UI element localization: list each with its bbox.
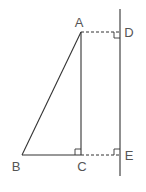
label-b: B [12, 159, 21, 174]
segment-ab [22, 32, 81, 155]
right-angle-marker-d [114, 32, 120, 38]
geometry-diagram: A B C D E [0, 0, 146, 192]
right-angle-marker-c [75, 149, 81, 155]
label-a: A [75, 15, 84, 30]
label-d: D [124, 25, 133, 40]
label-e: E [125, 148, 134, 163]
right-angle-marker-e [114, 149, 120, 155]
label-c: C [77, 159, 86, 174]
